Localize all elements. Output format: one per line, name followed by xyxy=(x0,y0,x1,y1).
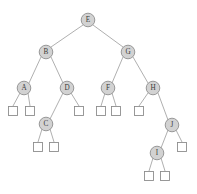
tree-node-J: J xyxy=(165,118,179,132)
tree-node-B: B xyxy=(39,45,53,59)
leaf-node-leaf-I-left xyxy=(145,172,154,181)
node-label-C: C xyxy=(44,120,49,128)
node-label-A: A xyxy=(21,84,27,92)
tree-edge-C-to-leaf-C-right xyxy=(50,129,54,142)
node-label-J: J xyxy=(171,121,174,129)
tree-node-E: E xyxy=(81,13,95,27)
tree-edge-G-to-F xyxy=(112,57,123,83)
tree-node-D: D xyxy=(60,81,74,95)
tree-node-I: I xyxy=(150,146,164,160)
leaf-node-leaf-F-left xyxy=(97,107,106,116)
internal-nodes-group: EBGADFHCJI xyxy=(17,13,179,160)
tree-edge-B-to-A xyxy=(29,57,41,83)
tree-edge-J-to-I xyxy=(161,130,168,148)
node-label-H: H xyxy=(150,84,155,92)
tree-canvas: EBGADFHCJI xyxy=(0,0,197,194)
leaf-node-leaf-D-right xyxy=(75,107,84,116)
tree-edge-G-to-H xyxy=(133,57,148,83)
tree-edge-C-to-leaf-C-left xyxy=(38,129,42,142)
leaf-node-leaf-J-right xyxy=(178,143,187,152)
tree-node-C: C xyxy=(39,117,53,131)
tree-edge-H-to-leaf-H-left xyxy=(139,93,148,106)
node-label-D: D xyxy=(64,84,69,92)
tree-edge-H-to-J xyxy=(158,93,168,120)
tree-edge-A-to-leaf-A-left xyxy=(13,93,20,106)
tree-edge-E-to-G xyxy=(93,25,123,47)
tree-edge-F-to-leaf-F-right xyxy=(112,93,116,106)
leaf-node-leaf-A-left xyxy=(9,107,18,116)
leaf-node-leaf-C-left xyxy=(34,143,43,152)
tree-edge-J-to-leaf-J-right xyxy=(176,130,182,142)
leaf-node-leaf-A-right xyxy=(26,107,35,116)
node-label-E: E xyxy=(86,16,91,24)
tree-edge-E-to-B xyxy=(51,25,83,47)
tree-node-A: A xyxy=(17,81,31,95)
tree-edge-D-to-leaf-D-right xyxy=(71,93,79,106)
node-label-G: G xyxy=(125,48,130,56)
tree-edge-I-to-leaf-I-left xyxy=(149,158,153,171)
node-label-B: B xyxy=(44,48,49,56)
leaf-node-leaf-C-right xyxy=(50,143,59,152)
tree-edge-D-to-C xyxy=(50,93,63,119)
tree-edge-I-to-leaf-I-right xyxy=(161,158,165,171)
tree-edge-B-to-D xyxy=(51,57,63,83)
leaf-node-leaf-F-right xyxy=(112,107,121,116)
tree-node-H: H xyxy=(146,81,160,95)
leaf-nodes-group xyxy=(9,107,187,181)
node-label-F: F xyxy=(106,84,110,92)
tree-node-F: F xyxy=(101,81,115,95)
tree-node-G: G xyxy=(121,45,135,59)
tree-edge-F-to-leaf-F-left xyxy=(101,93,105,106)
leaf-node-leaf-I-right xyxy=(161,172,170,181)
leaf-node-leaf-H-left xyxy=(135,107,144,116)
binary-tree-diagram: EBGADFHCJI xyxy=(0,0,197,194)
tree-edge-A-to-leaf-A-right xyxy=(28,93,30,106)
